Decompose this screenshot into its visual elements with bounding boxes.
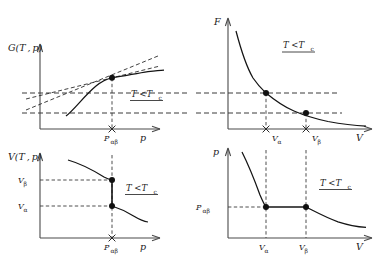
helmholtz-y-axis-label: F xyxy=(213,16,221,27)
volume-branch-left xyxy=(68,160,112,180)
helmholtz-temperature-annotation: T <T c xyxy=(282,40,315,52)
axes-gibbs xyxy=(37,44,160,132)
volume-xtick-label-sub: αβ xyxy=(111,247,119,255)
isotherm-right-branch xyxy=(306,207,366,227)
axes-helmholtz xyxy=(225,18,372,132)
helmholtz-xtick-beta-sub: β xyxy=(318,138,322,146)
pressure-x-axis-label: V xyxy=(356,241,364,252)
axes-volume xyxy=(37,153,160,241)
thermodynamics-figure: G(T , p) p P αβ T <T c xyxy=(0,0,390,262)
volume-temp-annotation-main: T <T xyxy=(126,183,148,193)
helmholtz-xtick-label-beta: V β xyxy=(312,134,322,146)
volume-ytick-label-alpha: V α xyxy=(18,202,28,213)
helmholtz-x-axis-label: V xyxy=(356,132,364,143)
pressure-ytick-label: P αβ xyxy=(195,203,211,215)
figure-svg: G(T , p) p P αβ T <T c xyxy=(0,0,390,262)
pressure-xtick-label-alpha: V α xyxy=(259,243,269,254)
volume-temp-annotation-sub: c xyxy=(154,188,158,195)
gibbs-xtick-label-sub: αβ xyxy=(111,138,119,146)
gibbs-xtick-label-main: P xyxy=(103,134,110,143)
helmholtz-xtick-label-alpha: V α xyxy=(272,134,282,145)
pressure-temp-annotation-main: T <T xyxy=(320,178,342,188)
gibbs-y-axis-label: G(T , p) xyxy=(8,42,43,53)
pressure-temp-annotation-sub: c xyxy=(348,183,352,190)
panel-helmholtz-vs-volume: F V V α V β T <T c xyxy=(196,16,372,146)
transition-point-marker-gibbs xyxy=(109,75,115,81)
pressure-xtick-alpha-sub: α xyxy=(265,247,269,254)
pressure-ytick-label-main: P xyxy=(195,203,202,212)
panel-gibbs-vs-pressure: G(T , p) p P αβ T <T c xyxy=(8,42,188,146)
point-alpha-marker-pressure xyxy=(263,204,269,210)
pressure-xtick-beta-sub: β xyxy=(305,247,309,255)
pressure-y-axis-label: p xyxy=(213,146,219,157)
gibbs-temperature-annotation: T <T c xyxy=(130,89,163,101)
panel-pressure-vs-volume: p V P αβ V α V β T <T c xyxy=(195,146,372,255)
point-beta-marker-helmholtz xyxy=(303,110,309,116)
volume-temperature-annotation: T <T c xyxy=(125,183,158,195)
gibbs-temp-annotation-main: T <T xyxy=(131,89,153,99)
isotherm-left-branch xyxy=(242,152,266,207)
volume-xtick-label: P αβ xyxy=(103,243,119,255)
volume-ytick-beta-sub: β xyxy=(24,180,28,188)
helmholtz-xtick-alpha-sub: α xyxy=(278,138,282,145)
point-v-alpha-marker xyxy=(109,203,115,209)
gibbs-temp-annotation-sub: c xyxy=(159,94,163,101)
gibbs-x-axis-label: p xyxy=(140,132,146,143)
volume-y-axis-label: V(T , p) xyxy=(8,151,42,162)
volume-ytick-label-beta: V β xyxy=(18,176,28,188)
volume-xtick-label-main: P xyxy=(103,243,110,252)
point-v-beta-marker xyxy=(109,177,115,183)
helmholtz-temp-annotation-sub: c xyxy=(311,45,315,52)
point-alpha-marker-helmholtz xyxy=(263,90,269,96)
helmholtz-temp-annotation-main: T <T xyxy=(283,40,305,50)
volume-ytick-alpha-sub: α xyxy=(24,206,28,213)
pressure-xtick-label-beta: V β xyxy=(299,243,309,255)
panel-volume-vs-pressure: V(T , p) p V β V α P αβ T <T c xyxy=(8,151,160,255)
gibbs-xtick-label: P αβ xyxy=(103,134,119,146)
pressure-ytick-label-sub: αβ xyxy=(203,207,211,215)
pressure-temperature-annotation: T <T c xyxy=(319,178,352,190)
volume-branch-right xyxy=(112,206,148,222)
point-beta-marker-pressure xyxy=(303,204,309,210)
volume-x-axis-label: p xyxy=(140,241,146,252)
gibbs-branch-alpha xyxy=(66,78,112,116)
